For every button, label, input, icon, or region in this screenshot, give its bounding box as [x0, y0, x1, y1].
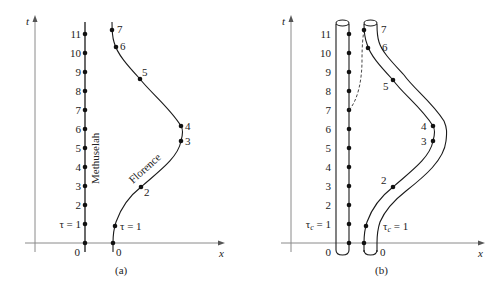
- svg-text:3: 3: [326, 180, 332, 192]
- svg-text:7: 7: [381, 23, 387, 35]
- florence-tick-labels-b: 0 τc = 1 2 3 4 5 6 7: [380, 23, 427, 258]
- methuselah-label-a: Methuselah: [89, 132, 101, 184]
- svg-text:11: 11: [70, 28, 81, 40]
- svg-text:2: 2: [144, 186, 150, 198]
- svg-text:0: 0: [116, 246, 122, 258]
- svg-text:3: 3: [185, 135, 191, 147]
- svg-text:0: 0: [380, 246, 386, 258]
- svg-text:4: 4: [421, 120, 427, 132]
- panel-b: t x 0 τc = 1 2 3 4 5 6 7 8: [281, 15, 485, 277]
- svg-text:6: 6: [326, 123, 332, 135]
- svg-text:7: 7: [76, 104, 82, 116]
- x-axis-arrow-icon: [478, 241, 485, 246]
- svg-text:8: 8: [76, 85, 82, 97]
- t-axis-label-a: t: [26, 15, 30, 27]
- svg-text:2: 2: [326, 199, 332, 211]
- panel-a: t x 0 τ = 1 2 3 4 5 6 7 8 9 10 11: [25, 15, 225, 277]
- x-axis-label-b: x: [477, 247, 483, 259]
- svg-text:3: 3: [76, 180, 82, 192]
- t-axis-arrow-icon: [33, 15, 38, 22]
- svg-text:9: 9: [326, 66, 332, 78]
- t-axis-label-b: t: [282, 15, 286, 27]
- svg-text:4: 4: [76, 161, 82, 173]
- svg-text:7: 7: [326, 104, 332, 116]
- svg-text:τ = 1: τ = 1: [120, 220, 142, 232]
- svg-text:τc = 1: τc = 1: [306, 218, 331, 232]
- dashed-signal-line: [349, 30, 364, 110]
- methuselah-tick-labels-a: 0 τ = 1 2 3 4 5 6 7 8 9 10 11: [59, 28, 81, 258]
- florence-events-a: [110, 28, 184, 246]
- svg-text:7: 7: [117, 23, 123, 35]
- svg-text:10: 10: [320, 47, 332, 59]
- svg-text:10: 10: [70, 47, 82, 59]
- svg-text:2: 2: [381, 174, 387, 186]
- svg-text:3: 3: [421, 135, 427, 147]
- svg-text:6: 6: [120, 40, 126, 52]
- x-axis-label-a: x: [218, 247, 224, 259]
- svg-text:4: 4: [326, 161, 332, 173]
- svg-text:2: 2: [76, 199, 82, 211]
- spacetime-diagram-figure: t x 0 τ = 1 2 3 4 5 6 7 8 9 10 11: [0, 0, 501, 291]
- svg-text:τ = 1: τ = 1: [59, 218, 81, 230]
- x-axis-arrow-icon: [218, 241, 225, 246]
- svg-text:4: 4: [185, 120, 191, 132]
- caption-b: (b): [375, 264, 388, 277]
- methuselah-worldtube-b: [336, 20, 349, 255]
- svg-text:5: 5: [142, 66, 148, 78]
- svg-text:5: 5: [76, 142, 82, 154]
- caption-a: (a): [115, 264, 128, 277]
- florence-label-a: Florence: [126, 151, 163, 186]
- methuselah-tick-labels-b: 0 τc = 1 2 3 4 5 6 7 8 9 10 11: [306, 28, 332, 258]
- svg-text:11: 11: [320, 28, 331, 40]
- svg-text:9: 9: [76, 66, 82, 78]
- t-axis-arrow-icon: [289, 15, 294, 22]
- florence-worldline-a: [112, 22, 183, 252]
- svg-text:0: 0: [326, 246, 332, 258]
- svg-text:0: 0: [75, 246, 81, 258]
- svg-text:τc = 1: τc = 1: [383, 220, 408, 234]
- svg-text:5: 5: [383, 80, 389, 92]
- svg-text:8: 8: [326, 85, 332, 97]
- svg-text:5: 5: [326, 142, 332, 154]
- svg-text:6: 6: [382, 41, 388, 53]
- svg-text:6: 6: [76, 123, 82, 135]
